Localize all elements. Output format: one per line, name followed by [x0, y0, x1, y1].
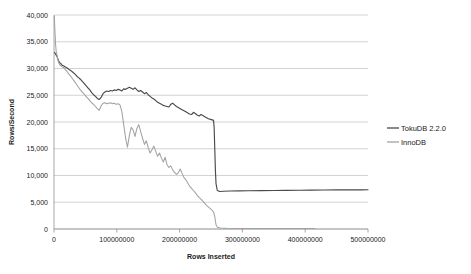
y-tick-label: 25,000	[27, 92, 49, 99]
x-axis-title: Rows Inserted	[187, 253, 235, 260]
x-tick-label: 200000000	[162, 236, 197, 243]
y-tick-label: 5,000	[30, 199, 48, 206]
y-tick-label: 30,000	[27, 65, 49, 72]
series-line-innodb	[54, 16, 314, 229]
y-axis-title: Rows/Second	[8, 99, 15, 145]
x-tick-label: 0	[52, 236, 56, 243]
x-tick-label: 500000000	[350, 236, 385, 243]
chart-container: 05,00010,00015,00020,00025,00030,00035,0…	[0, 0, 471, 274]
y-tick-label: 10,000	[27, 172, 49, 179]
x-tick-label: 300000000	[225, 236, 260, 243]
legend-label-2: InnoDB	[401, 138, 426, 147]
y-tick-label: 20,000	[27, 119, 49, 126]
y-tick-label: 0	[44, 226, 48, 233]
legend-label-1: TokuDB 2.2.0	[401, 124, 446, 133]
x-tick-label: 100000000	[99, 236, 134, 243]
line-chart: 05,00010,00015,00020,00025,00030,00035,0…	[0, 0, 471, 274]
y-tick-label: 35,000	[27, 38, 49, 45]
y-tick-label: 40,000	[27, 12, 49, 19]
x-tick-label: 400000000	[288, 236, 323, 243]
y-tick-label: 15,000	[27, 145, 49, 152]
